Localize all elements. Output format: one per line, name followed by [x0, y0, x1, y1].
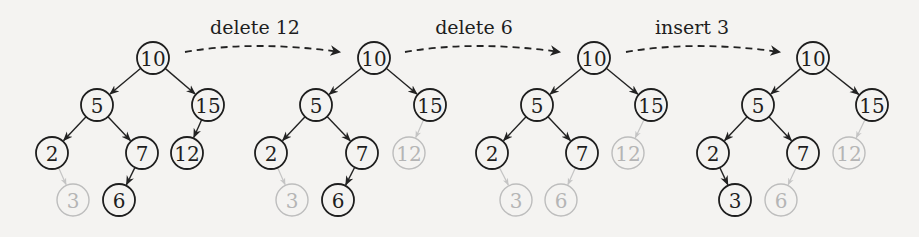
tree-1-node-5: 5 — [81, 89, 113, 121]
tree-2-node-5: 5 — [300, 89, 332, 121]
node-key: 5 — [91, 94, 104, 118]
edge-5-7 — [769, 117, 791, 141]
node-key: 15 — [195, 94, 220, 118]
op-label-delete-6: delete 6 — [435, 16, 513, 38]
node-key: 15 — [638, 94, 663, 118]
tree-2-node-2: 2 — [255, 137, 287, 169]
tree-1-node-2: 2 — [36, 137, 68, 169]
tree-2-node-10: 10 — [358, 42, 390, 74]
tree-3-node-7: 7 — [566, 137, 598, 169]
tree-4-node-15: 15 — [856, 89, 888, 121]
edge-15-12 — [635, 119, 644, 137]
tree-3-node-3: 3 — [500, 184, 532, 216]
edge-2-3 — [499, 167, 508, 185]
node-key: 12 — [396, 142, 421, 166]
tree-1-node-15: 15 — [192, 89, 224, 121]
node-key: 12 — [174, 142, 199, 166]
edge-10-15 — [386, 68, 417, 94]
dashed-arrow-icon — [626, 46, 780, 52]
node-key: 10 — [581, 47, 606, 71]
node-key: 6 — [113, 189, 126, 213]
node-key: 5 — [752, 94, 765, 118]
edge-10-15 — [606, 68, 638, 94]
tree-4-node-5: 5 — [742, 89, 774, 121]
node-key: 6 — [332, 189, 345, 213]
tree-4-node-3: 3 — [719, 184, 751, 216]
tree-nodes: 1051527123610515271236105152712361051527… — [36, 42, 888, 216]
op-label-insert-3: insert 3 — [655, 16, 729, 38]
edge-5-7 — [327, 117, 350, 141]
dashed-arrow-icon — [185, 46, 340, 52]
node-key: 2 — [707, 142, 720, 166]
node-key: 6 — [555, 189, 568, 213]
node-key: 7 — [797, 142, 810, 166]
node-key: 7 — [356, 142, 369, 166]
edge-5-2 — [725, 117, 747, 141]
node-key: 2 — [486, 142, 499, 166]
node-key: 15 — [859, 94, 884, 118]
tree-2-node-3: 3 — [276, 184, 308, 216]
tree-3-node-2: 2 — [476, 137, 508, 169]
bst-diagram: delete 12 delete 6 insert 3 105152712361… — [0, 0, 919, 237]
node-key: 3 — [67, 189, 80, 213]
tree-4-node-10: 10 — [797, 42, 829, 74]
tree-3-node-15: 15 — [635, 89, 667, 121]
tree-3-node-5: 5 — [521, 89, 553, 121]
tree-2-node-6: 6 — [322, 184, 354, 216]
tree-4-node-12: 12 — [833, 137, 865, 169]
edge-7-6 — [126, 167, 134, 184]
tree-2-node-15: 15 — [414, 89, 446, 121]
edge-15-12 — [194, 120, 202, 138]
node-key: 7 — [576, 142, 589, 166]
tree-4-node-7: 7 — [787, 137, 819, 169]
edge-10-15 — [826, 68, 859, 94]
edge-10-5 — [110, 68, 141, 94]
edge-10-5 — [329, 68, 361, 94]
node-key: 6 — [775, 189, 788, 213]
edge-15-12 — [856, 119, 865, 137]
node-key: 2 — [46, 142, 59, 166]
node-key: 10 — [140, 47, 165, 71]
tree-3-node-6: 6 — [545, 184, 577, 216]
tree-1-node-12: 12 — [171, 137, 203, 169]
node-key: 10 — [361, 47, 386, 71]
edge-2-3 — [59, 168, 67, 185]
edge-2-3 — [720, 167, 728, 184]
node-key: 7 — [136, 142, 149, 166]
edge-5-7 — [108, 117, 130, 141]
edge-5-2 — [283, 117, 305, 141]
edge-7-6 — [568, 168, 576, 185]
tree-4-node-2: 2 — [697, 137, 729, 169]
tree-1-node-3: 3 — [57, 184, 89, 216]
node-key: 10 — [800, 47, 825, 71]
edge-10-5 — [550, 68, 582, 94]
node-key: 3 — [286, 189, 299, 213]
tree-4-node-6: 6 — [765, 184, 797, 216]
edge-2-3 — [278, 168, 286, 185]
node-key: 2 — [265, 142, 278, 166]
transition-arrows — [185, 46, 780, 52]
node-key: 3 — [729, 189, 742, 213]
node-key: 15 — [417, 94, 442, 118]
edge-5-2 — [64, 117, 86, 141]
node-key: 5 — [531, 94, 544, 118]
node-key: 3 — [510, 189, 523, 213]
node-key: 5 — [310, 94, 323, 118]
edge-10-15 — [165, 68, 195, 94]
transition-labels: delete 12 delete 6 insert 3 — [210, 16, 729, 38]
tree-2-node-7: 7 — [346, 137, 378, 169]
edge-15-12 — [416, 120, 424, 138]
edge-7-6 — [346, 167, 355, 185]
tree-1-node-7: 7 — [126, 137, 158, 169]
tree-1-node-6: 6 — [103, 184, 135, 216]
edge-5-2 — [504, 117, 526, 141]
edge-10-5 — [771, 68, 801, 94]
node-key: 12 — [836, 142, 861, 166]
node-key: 12 — [615, 142, 640, 166]
edge-5-7 — [548, 117, 570, 141]
tree-3-node-10: 10 — [578, 42, 610, 74]
tree-2-node-12: 12 — [393, 137, 425, 169]
tree-1-node-10: 10 — [137, 42, 169, 74]
tree-3-node-12: 12 — [612, 137, 644, 169]
edge-7-6 — [788, 167, 796, 184]
